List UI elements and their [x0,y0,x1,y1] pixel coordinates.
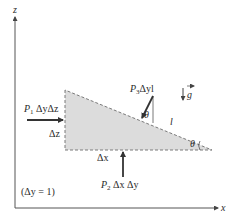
delta-z-label: Δz [49,128,60,139]
pressure-element-diagram: z x P1 ΔyΔz Δz Δx P2 Δx Δy P3Δyl θ l [0,0,229,223]
delta-x-label: Δx [97,152,108,163]
unit-depth-note: (Δy = 1) [21,186,55,198]
p1-force-label: P1 ΔyΔz [23,103,59,116]
theta-label-corner: θ [190,138,195,149]
hypotenuse-label: l [170,116,173,127]
x-axis-label: x [220,202,226,213]
z-axis-label: z [12,4,17,15]
gravity-label: g [187,89,192,100]
p2-force-label: P2 Δx Δy [100,179,138,192]
p3-force-label: P3Δyl [129,83,154,96]
theta-label-top: θ [144,109,149,120]
gravity-indicator: g [183,86,194,100]
